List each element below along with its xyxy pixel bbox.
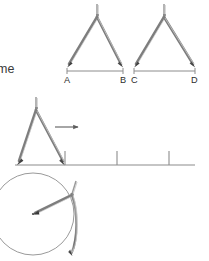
compass-left-leg (19, 110, 36, 161)
compass-measuring-CD (134, 4, 195, 68)
compass-left-leg (69, 17, 97, 64)
body-text-fragment: me (0, 62, 15, 76)
compass-right-leg (164, 17, 193, 64)
compass-right-leg-highlight (98, 18, 122, 64)
compass-right-leg-highlight (37, 111, 64, 161)
compass-pivot-leg-highlight (36, 196, 72, 214)
segment-AB (67, 68, 123, 74)
number-line (15, 151, 195, 165)
compass-right-leg (36, 110, 63, 161)
compass-right-leg (97, 17, 121, 64)
point-label-C: C (131, 75, 138, 85)
point-label-A: A (64, 75, 71, 85)
point-label-D: D (191, 75, 198, 85)
compass-pivot-leg (35, 195, 72, 213)
compass-on-number-line (17, 97, 65, 165)
point-label-B: B (120, 75, 126, 85)
compass-drawing-circle-group (0, 173, 77, 256)
figure-root: A B C D (0, 0, 209, 261)
compass-left-leg-highlight (71, 18, 99, 64)
compass-left-leg (136, 17, 164, 64)
compass-left-leg-highlight (138, 18, 166, 64)
compass-measuring-AB (67, 4, 123, 68)
compass-left-leg-highlight (20, 111, 37, 161)
figure-canvas: A B C D (0, 0, 209, 261)
segment-CD (134, 68, 195, 74)
compass-right-leg-highlight (165, 18, 194, 64)
